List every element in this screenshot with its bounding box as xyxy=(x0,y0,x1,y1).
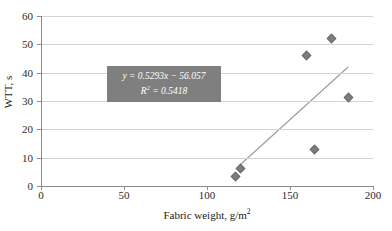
gridline-horizontal xyxy=(41,44,373,45)
x-axis-title-text: Fabric weight, g/m xyxy=(163,209,246,221)
trendline-equation-box: y = 0.5293x − 56.057 R2 = 0.5418 xyxy=(107,66,221,102)
y-axis-tick-label: 40 xyxy=(3,68,33,79)
y-axis-tick-mark xyxy=(37,158,41,159)
y-axis-tick-mark xyxy=(37,44,41,45)
x-axis-tick-label: 150 xyxy=(270,190,310,201)
trendline-rsquared-text: R2 = 0.5418 xyxy=(109,82,219,97)
y-axis-line xyxy=(41,16,42,187)
y-axis-tick-label: 30 xyxy=(3,96,33,107)
x-axis-title: Fabric weight, g/m2 xyxy=(41,207,373,221)
y-axis-tick-mark xyxy=(37,101,41,102)
trendline-equation-text: y = 0.5293x − 56.057 xyxy=(109,70,219,82)
rsquared-value: = 0.5418 xyxy=(150,86,187,96)
x-axis-tick-label: 50 xyxy=(104,190,144,201)
y-axis-tick-label: 10 xyxy=(3,153,33,164)
x-axis-tick-label: 100 xyxy=(187,190,227,201)
scatter-chart: y = 0.5293x − 56.057 R2 = 0.5418 Fabric … xyxy=(0,0,392,231)
x-axis-tick-label: 200 xyxy=(353,190,392,201)
gridline-horizontal xyxy=(41,158,373,159)
y-axis-tick-mark xyxy=(37,73,41,74)
y-axis-tick-mark xyxy=(37,129,41,130)
y-axis-tick-mark xyxy=(37,16,41,17)
gridline-horizontal xyxy=(41,16,373,17)
y-axis-tick-label: 50 xyxy=(3,39,33,50)
y-axis-tick-label: 20 xyxy=(3,124,33,135)
x-axis-title-exponent: 2 xyxy=(247,207,251,216)
trendline-segment xyxy=(240,67,348,165)
y-axis-tick-label: 60 xyxy=(3,11,33,22)
x-axis-tick-label: 0 xyxy=(21,190,61,201)
gridline-horizontal xyxy=(41,129,373,130)
